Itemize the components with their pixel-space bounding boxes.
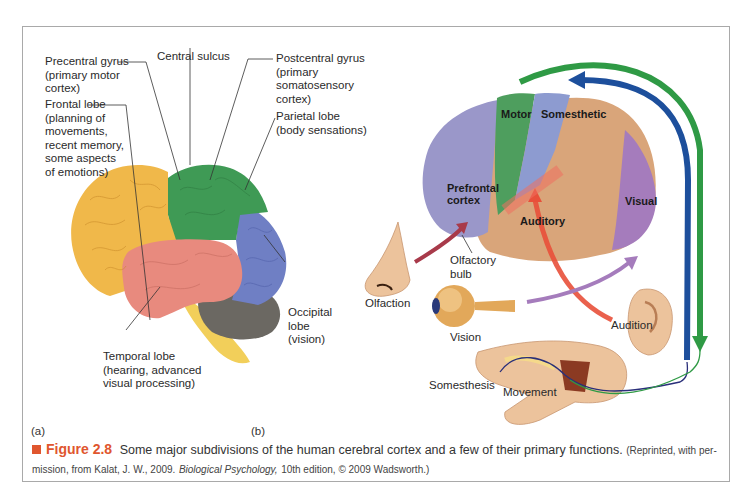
label-postcentral-gyrus: Postcentral gyrus (primary somatosensory… [276, 52, 365, 106]
label-motor: Motor [501, 108, 532, 120]
label-vision: Vision [450, 331, 481, 345]
label-parietal-lobe: Parietal lobe (body sensations) [276, 110, 367, 137]
label-prefrontal-cortex: Prefrontal cortex [447, 182, 499, 206]
prefrontal-cortex [423, 100, 498, 238]
label-olfaction: Olfaction [365, 297, 410, 311]
figure-number: Figure 2.8 [46, 441, 112, 457]
figure-caption: Figure 2.8 Some major subdivisions of th… [32, 440, 722, 479]
caption-text: Some major subdivisions of the human cer… [120, 443, 623, 457]
label-movement: Movement [503, 386, 557, 400]
label-occipital-lobe: Occipital lobe (vision) [288, 306, 332, 347]
label-somesthesis: Somesthesis [429, 379, 495, 393]
panel-a-tag: (a) [31, 425, 45, 437]
caption-source-book: Biological Psychology, [179, 464, 278, 475]
label-central-sulcus: Central sulcus [157, 50, 230, 64]
label-visual: Visual [625, 195, 657, 207]
label-audition: Audition [611, 319, 653, 333]
label-temporal-lobe: Temporal lobe (hearing, advanced visual … [103, 350, 201, 391]
caption-source-suffix: 10th edition, © 2009 Wadsworth.) [281, 464, 429, 475]
functional-brain-diagram [365, 65, 708, 424]
eye-illustration [432, 285, 515, 327]
label-precentral-gyrus: Precentral gyrus (primary motor cortex) [45, 55, 129, 96]
label-olfactory-bulb: Olfactory bulb [450, 254, 496, 281]
label-somesthetic: Somesthetic [541, 108, 606, 120]
label-frontal-lobe: Frontal lobe (planning of movements, rec… [45, 98, 124, 179]
occipital-lobe [232, 205, 286, 305]
caption-square-icon [32, 445, 41, 454]
hand-illustration [476, 341, 700, 424]
label-auditory: Auditory [520, 215, 565, 227]
panel-b-tag: (b) [251, 425, 265, 437]
